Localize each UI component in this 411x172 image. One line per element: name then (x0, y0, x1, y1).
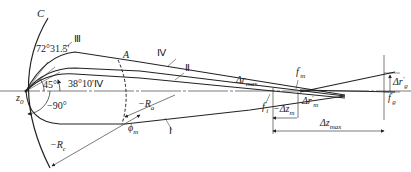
label-radius-rc: −Rc (50, 140, 66, 150)
label-curve-iii: Ⅲ (74, 34, 81, 44)
label-point-a: A (123, 50, 129, 60)
label-curve-i: Ⅰ (169, 126, 172, 136)
label-delta-z-m: −Δzm (273, 104, 295, 114)
label-radius-ra: −Ra (138, 99, 154, 109)
label-delta-r-g: Δr′g (393, 77, 408, 87)
label-delta-r-max: Δrmax (236, 75, 257, 85)
label-delta-r-m: Δr′m (302, 96, 318, 106)
label-delta-z-max: Δzmax (320, 118, 341, 128)
curve-i (26, 91, 345, 124)
origin-point (25, 90, 28, 93)
label-angle-neg90: −90° (47, 101, 67, 111)
label-angle-38: 38°10'Ⅳ (68, 79, 103, 89)
curve-c (28, 18, 50, 168)
label-focus-fi: f′i (262, 102, 268, 112)
ray-upper-right (300, 72, 395, 92)
label-angle-45: 45° (43, 80, 57, 90)
label-focus-fg: f′g (388, 93, 396, 103)
label-origin-z0: z0 (16, 93, 23, 103)
label-phi-m: ϕm (128, 123, 138, 133)
label-focus-fm: f′m (296, 67, 305, 77)
label-curve-ii: Ⅱ (185, 63, 190, 73)
label-curve-c: C (37, 8, 44, 19)
label-angle-72: 72°31.5' (36, 44, 69, 54)
label-curve-iv: Ⅳ (157, 48, 166, 58)
angle-38-arc (58, 80, 60, 91)
